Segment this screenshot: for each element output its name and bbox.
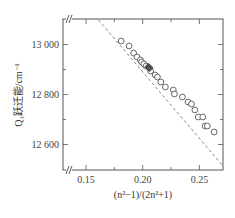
x-tick-label: 0.25 (191, 174, 209, 185)
data-point-circle (172, 91, 178, 97)
data-point-circle (211, 129, 217, 135)
data-point-circle (158, 79, 164, 85)
plot-border (63, 19, 223, 170)
data-point-circle (118, 38, 124, 44)
x-tick-label: 0.15 (77, 174, 95, 185)
data-points (118, 38, 217, 135)
dashed-fit-line (98, 20, 222, 165)
data-point-circle (126, 43, 132, 49)
x-axis-label: (n²−1)/(2n²+1) (114, 189, 172, 201)
data-point-circle (179, 94, 185, 100)
scatter-chart: 0.150.200.2512 60012 80013 000 (n²−1)/(2… (0, 0, 235, 218)
y-axis-label: Q₁跃迁能/cm⁻¹ (12, 63, 24, 127)
data-point-circle (189, 101, 195, 107)
y-tick-label: 13 000 (32, 39, 60, 50)
fit-line (98, 20, 222, 165)
x-tick-label: 0.20 (134, 174, 152, 185)
plot-frame (63, 19, 223, 170)
y-tick-label: 12 600 (32, 139, 60, 150)
data-point-circle (192, 107, 198, 113)
data-point-circle (162, 84, 168, 90)
data-point-circle (204, 123, 210, 129)
data-point-circle (200, 114, 206, 120)
y-tick-label: 12 800 (32, 89, 60, 100)
